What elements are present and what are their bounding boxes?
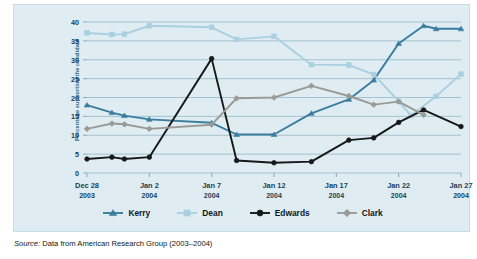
chart-panel: Percentage supporting the candidate 0510… bbox=[13, 4, 470, 232]
marker-circle bbox=[257, 210, 263, 216]
marker-circle bbox=[272, 161, 277, 166]
marker-square bbox=[209, 25, 214, 30]
legend-label: Clark bbox=[362, 208, 383, 218]
marker-square bbox=[371, 72, 376, 77]
marker-diamond bbox=[122, 121, 128, 127]
marker-square bbox=[309, 62, 314, 67]
legend-swatch-triangle-icon bbox=[102, 208, 124, 218]
legend-item-clark[interactable]: Clark bbox=[336, 208, 383, 218]
marker-circle bbox=[309, 159, 314, 164]
marker-circle bbox=[371, 136, 376, 141]
series-clark bbox=[84, 83, 426, 132]
legend-swatch-circle-icon bbox=[249, 208, 271, 218]
source-note: Source: Data from American Research Grou… bbox=[14, 239, 212, 248]
marker-square bbox=[272, 34, 277, 39]
marker-diamond bbox=[343, 209, 351, 217]
series-line bbox=[87, 26, 461, 135]
marker-square bbox=[85, 31, 90, 36]
legend-label: Dean bbox=[202, 208, 222, 218]
marker-circle bbox=[85, 157, 90, 162]
series-kerry bbox=[84, 23, 464, 136]
marker-circle bbox=[347, 138, 352, 143]
legend-item-edwards[interactable]: Edwards bbox=[249, 208, 310, 218]
legend-swatch-square-icon bbox=[176, 208, 198, 218]
marker-circle bbox=[209, 56, 214, 61]
marker-square bbox=[110, 32, 115, 37]
marker-circle bbox=[110, 155, 115, 160]
legend-label: Edwards bbox=[275, 208, 310, 218]
line-chart-svg bbox=[14, 5, 471, 233]
legend-item-dean[interactable]: Dean bbox=[176, 208, 222, 218]
source-text: Data from American Research Group (2003–… bbox=[42, 239, 212, 248]
legend-label: Kerry bbox=[128, 208, 150, 218]
figure-root: Percentage supporting the candidate 0510… bbox=[0, 0, 477, 259]
marker-square bbox=[184, 210, 190, 216]
marker-circle bbox=[122, 157, 127, 162]
marker-square bbox=[347, 63, 352, 68]
marker-diamond bbox=[84, 126, 90, 132]
marker-square bbox=[234, 37, 239, 42]
marker-square bbox=[122, 32, 127, 37]
marker-square bbox=[459, 72, 464, 77]
marker-square bbox=[434, 94, 439, 99]
marker-diamond bbox=[146, 126, 152, 132]
chart-legend: KerryDeanEdwardsClark bbox=[14, 203, 471, 223]
source-label: Source: bbox=[14, 239, 40, 248]
marker-circle bbox=[396, 120, 401, 125]
plot-area: Percentage supporting the candidate 0510… bbox=[14, 5, 471, 233]
marker-circle bbox=[234, 158, 239, 163]
marker-square bbox=[147, 23, 152, 28]
series-line bbox=[87, 59, 461, 163]
marker-diamond bbox=[371, 102, 377, 108]
marker-diamond bbox=[309, 83, 315, 89]
marker-circle bbox=[147, 155, 152, 160]
legend-swatch-diamond-icon bbox=[336, 208, 358, 218]
marker-circle bbox=[459, 124, 464, 129]
marker-diamond bbox=[271, 95, 277, 101]
legend-item-kerry[interactable]: Kerry bbox=[102, 208, 150, 218]
marker-diamond bbox=[109, 121, 115, 127]
